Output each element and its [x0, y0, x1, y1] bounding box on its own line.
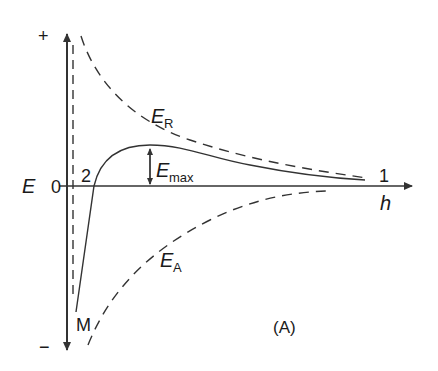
repulsion-curve: [81, 36, 367, 178]
zero-label: 0: [51, 177, 61, 197]
barrier-label-sub: max: [169, 170, 194, 185]
total-energy-curve: [76, 145, 365, 312]
panel-label: (A): [273, 318, 296, 337]
repulsion-label: E: [151, 105, 165, 127]
energy-axis-label: E: [22, 175, 36, 197]
attraction-label: E: [160, 249, 174, 271]
minus-sign: −: [39, 337, 50, 357]
far-point-label: 1: [379, 166, 389, 186]
energy-distance-diagram: + − E 0 h 2 1 M E R E max E A (A): [0, 0, 438, 371]
attraction-label-sub: A: [173, 260, 182, 275]
plus-sign: +: [38, 26, 49, 46]
repulsion-label-sub: R: [164, 116, 173, 131]
primary-minimum-label: M: [76, 315, 91, 335]
barrier-label: E: [156, 159, 170, 181]
distance-axis-label: h: [380, 192, 391, 214]
secondary-minimum-label: 2: [81, 166, 91, 186]
